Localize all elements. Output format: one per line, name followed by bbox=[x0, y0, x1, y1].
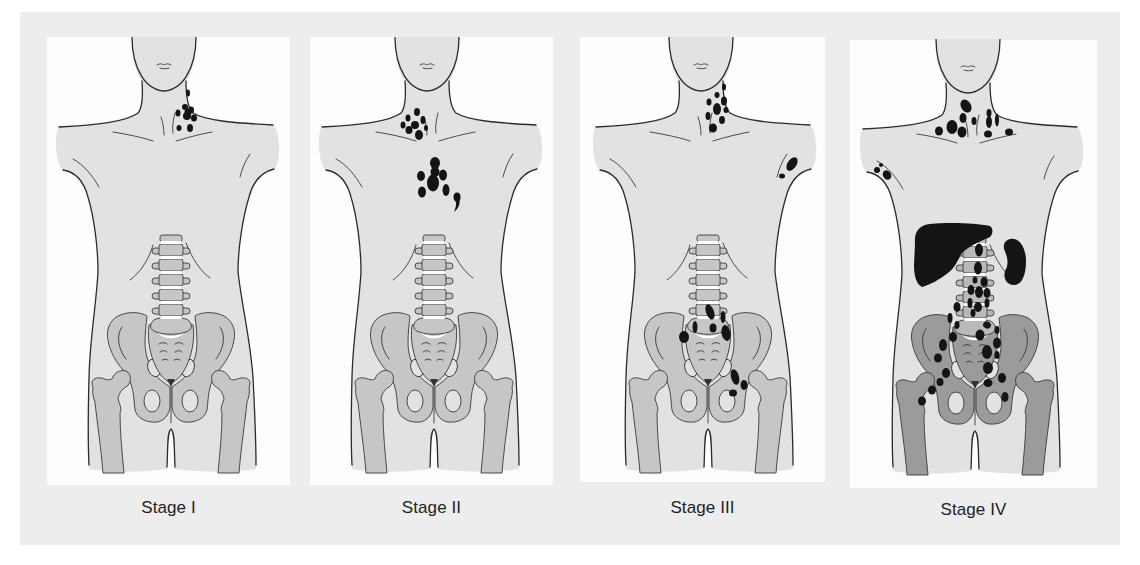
lymph-node-lesion bbox=[185, 109, 192, 116]
right-obturator bbox=[986, 392, 1002, 414]
lymph-node-lesion bbox=[693, 321, 698, 333]
body-figure bbox=[319, 37, 542, 473]
lymph-node-lesion bbox=[954, 302, 961, 312]
lymph-node-lesion bbox=[715, 92, 720, 98]
lymph-node-lesion bbox=[427, 175, 439, 192]
l5-vertebra bbox=[151, 317, 192, 334]
lymph-node-lesion bbox=[424, 125, 428, 131]
lymph-node-lesion bbox=[706, 112, 711, 120]
right-obturator bbox=[445, 390, 461, 412]
lymph-node-lesion bbox=[995, 351, 1000, 359]
lymph-node-lesion bbox=[721, 97, 727, 106]
lymph-node-lesion bbox=[982, 345, 992, 359]
lymphoma-staging-figure: Stage I bbox=[0, 0, 1140, 565]
body-figure bbox=[593, 37, 816, 473]
lymph-node-lesion bbox=[722, 84, 726, 91]
lymph-node-lesion bbox=[984, 379, 993, 387]
l5-vertebra bbox=[414, 317, 455, 334]
lymph-node-lesion bbox=[741, 380, 748, 390]
lymph-node-lesion bbox=[984, 131, 992, 138]
lymph-node-lesion bbox=[713, 103, 721, 115]
lymph-node-lesion bbox=[1005, 129, 1013, 136]
stage-4-illustration bbox=[850, 39, 1095, 488]
lymph-node-lesion bbox=[948, 313, 953, 323]
lymph-node-lesion bbox=[968, 298, 973, 308]
lymph-node-lesion bbox=[972, 117, 977, 125]
lymph-node-lesion bbox=[719, 116, 725, 124]
lymph-node-lesion bbox=[418, 187, 426, 198]
body-figure bbox=[56, 37, 279, 473]
lymph-node-lesion bbox=[187, 124, 193, 132]
lymph-node-lesion bbox=[1002, 392, 1009, 402]
lymph-node-lesion bbox=[411, 121, 419, 129]
lymph-node-lesion bbox=[986, 116, 992, 128]
lymph-node-lesion bbox=[955, 321, 960, 329]
lymph-node-lesion bbox=[415, 130, 423, 140]
left-obturator bbox=[681, 390, 697, 412]
lymph-node-lesion bbox=[934, 354, 942, 363]
lymph-node-lesion bbox=[937, 378, 944, 386]
lymph-node-lesion bbox=[414, 108, 420, 116]
lymph-node-lesion bbox=[721, 311, 726, 323]
lymph-node-lesion bbox=[421, 116, 426, 124]
lymph-node-lesion bbox=[949, 332, 957, 342]
pelvis bbox=[896, 315, 1054, 475]
stage-2-illustration bbox=[309, 37, 554, 487]
lymph-node-lesion bbox=[443, 184, 450, 196]
lymph-node-lesion bbox=[724, 107, 729, 113]
lymph-node-lesion bbox=[981, 277, 988, 287]
lymph-node-lesion bbox=[976, 330, 985, 341]
left-obturator bbox=[407, 390, 423, 412]
lymph-node-lesion bbox=[984, 288, 991, 298]
lymph-node-lesion bbox=[707, 99, 712, 106]
lymph-node-lesion bbox=[975, 244, 983, 257]
lymph-node-lesion bbox=[975, 286, 983, 298]
lymph-node-lesion bbox=[974, 262, 982, 275]
stage-1-illustration bbox=[46, 37, 291, 487]
pelvis bbox=[355, 313, 513, 473]
lymph-node-lesion bbox=[960, 113, 967, 123]
lymph-node-lesion bbox=[995, 326, 1000, 334]
lymph-node-lesion bbox=[958, 127, 967, 138]
right-obturator bbox=[182, 390, 198, 412]
lymph-node-lesion bbox=[942, 368, 950, 378]
body-figure bbox=[860, 39, 1083, 475]
lymph-node-lesion bbox=[935, 127, 943, 136]
lymph-node-lesion bbox=[971, 309, 976, 317]
lymph-node-lesion bbox=[939, 339, 947, 351]
lymph-node-lesion bbox=[709, 124, 717, 133]
pelvis bbox=[629, 313, 787, 473]
lymph-node-lesion bbox=[406, 115, 411, 122]
stage-1-label: Stage I bbox=[47, 498, 290, 518]
lymph-node-lesion bbox=[947, 120, 958, 134]
stage-3-label: Stage III bbox=[580, 498, 825, 518]
lymph-node-lesion bbox=[998, 373, 1006, 383]
lymph-node-lesion bbox=[186, 90, 190, 97]
lymph-node-lesion bbox=[406, 126, 413, 134]
lymph-node-lesion bbox=[779, 174, 785, 179]
lymph-node-lesion bbox=[995, 114, 999, 127]
lymph-node-lesion bbox=[177, 125, 182, 131]
stage-2-label: Stage II bbox=[310, 498, 553, 518]
lymph-node-lesion bbox=[729, 390, 737, 397]
lymph-node-lesion bbox=[993, 338, 1001, 349]
lymph-node-lesion bbox=[983, 362, 993, 374]
pelvis bbox=[92, 313, 250, 473]
stage-4-label: Stage IV bbox=[850, 500, 1097, 520]
lymph-node-lesion bbox=[439, 170, 447, 181]
lymph-node-lesion bbox=[879, 163, 883, 167]
lymph-node-lesion bbox=[985, 299, 990, 308]
lymph-node-lesion bbox=[987, 109, 992, 117]
lymph-node-lesion bbox=[874, 167, 880, 173]
lymph-node-lesion bbox=[928, 386, 936, 395]
left-obturator bbox=[948, 392, 964, 414]
lymph-node-lesion bbox=[918, 397, 926, 406]
lymph-node-lesion bbox=[968, 285, 975, 295]
left-obturator bbox=[144, 390, 160, 412]
lymph-node-lesion bbox=[417, 171, 425, 181]
lymph-node-lesion bbox=[176, 110, 181, 117]
lymph-node-lesion bbox=[679, 331, 689, 343]
lymph-node-lesion bbox=[191, 115, 197, 122]
lymph-node-lesion bbox=[974, 302, 982, 312]
lymph-node-lesion bbox=[401, 122, 406, 129]
